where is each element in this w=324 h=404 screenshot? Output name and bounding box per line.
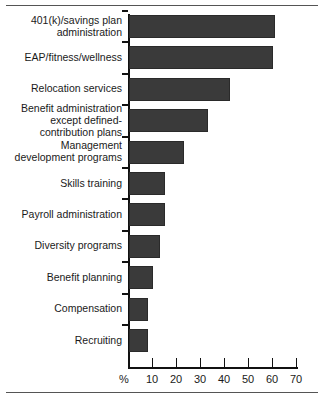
category-label: Compensation	[4, 302, 122, 314]
y-axis-tick	[122, 293, 128, 295]
category-label: Diversity programs	[4, 239, 122, 251]
y-axis-tick	[122, 73, 128, 75]
bar	[129, 109, 208, 132]
x-axis-tick-label: 10	[139, 373, 165, 386]
y-axis-tick	[122, 198, 128, 200]
x-axis-tick-label: 70	[283, 373, 309, 386]
category-label: EAP/fitness/wellness	[4, 51, 122, 63]
x-axis-tick-label: 60	[259, 373, 285, 386]
x-axis-tick-label: 50	[235, 373, 261, 386]
y-axis-tick	[122, 41, 128, 43]
y-axis-tick	[122, 324, 128, 326]
y-axis-tick	[122, 10, 128, 12]
bar	[129, 266, 153, 289]
category-label: Payroll administration	[4, 208, 122, 220]
x-axis-tick	[176, 358, 177, 367]
category-label: Skills training	[4, 177, 122, 189]
bar	[129, 141, 184, 164]
x-axis-tick	[272, 358, 273, 367]
x-axis-tick	[224, 358, 225, 367]
category-label: Recruiting	[4, 334, 122, 346]
bar	[129, 329, 148, 352]
x-axis-tick	[248, 358, 249, 367]
y-axis-tick	[122, 261, 128, 263]
bar-chart-plot-area: 10203040506070401(k)/savings plan admini…	[0, 12, 324, 374]
y-axis-tick	[122, 167, 128, 169]
bar	[129, 235, 160, 258]
bar	[129, 46, 273, 69]
bar	[129, 15, 275, 38]
x-axis-tick-label: 20	[163, 373, 189, 386]
category-label: Benefit administration except defined- c…	[4, 102, 122, 138]
top-divider-rule	[6, 5, 318, 6]
bar	[129, 78, 230, 101]
x-axis-line	[128, 367, 298, 369]
x-axis-tick	[200, 358, 201, 367]
category-label: Management development programs	[4, 139, 122, 163]
bar	[129, 298, 148, 321]
category-label: Relocation services	[4, 82, 122, 94]
bar	[129, 172, 165, 195]
bottom-divider-rule	[6, 392, 318, 393]
x-axis-tick	[152, 358, 153, 367]
bar	[129, 203, 165, 226]
chart-figure: 10203040506070401(k)/savings plan admini…	[0, 0, 324, 404]
x-axis-tick	[296, 358, 297, 367]
category-label: Benefit planning	[4, 271, 122, 283]
y-axis-tick	[122, 104, 128, 106]
y-axis-tick	[122, 136, 128, 138]
category-label: 401(k)/savings plan administration	[4, 14, 122, 38]
x-axis-tick-label: 40	[211, 373, 237, 386]
y-axis-tick	[122, 230, 128, 232]
x-axis-tick-label: 30	[187, 373, 213, 386]
x-axis-unit-label: %	[114, 373, 134, 386]
